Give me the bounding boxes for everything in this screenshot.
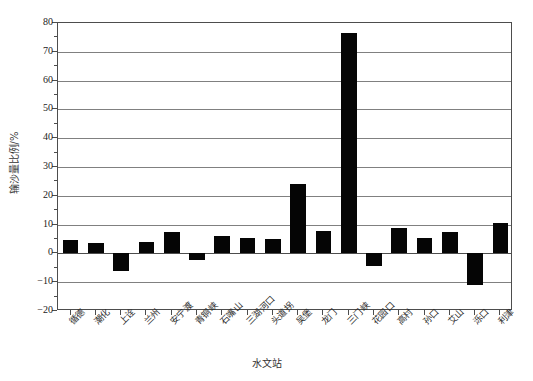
bar bbox=[391, 228, 407, 253]
y-axis-tick-label: 20 bbox=[17, 190, 53, 200]
bar bbox=[493, 223, 509, 253]
y-axis-minor-tick bbox=[54, 152, 57, 153]
y-axis-tick-label: 50 bbox=[17, 103, 53, 113]
y-axis-tick-label: 30 bbox=[17, 161, 53, 171]
y-axis-tick-label: 60 bbox=[17, 75, 53, 85]
plot-area bbox=[57, 22, 512, 310]
y-axis-minor-tick bbox=[54, 267, 57, 268]
y-axis-minor-tick bbox=[54, 180, 57, 181]
y-axis-minor-tick bbox=[54, 36, 57, 37]
bar bbox=[88, 243, 104, 253]
chart-figure: 输沙量比例/% −20−1001020304050607080循德潮化上诠兰州安… bbox=[0, 0, 533, 381]
bar bbox=[467, 253, 483, 285]
y-axis-minor-tick bbox=[54, 296, 57, 297]
y-axis-tick-label: 10 bbox=[17, 219, 53, 229]
gridline bbox=[58, 109, 511, 110]
y-axis-minor-tick bbox=[54, 238, 57, 239]
bar bbox=[341, 33, 357, 253]
gridline bbox=[58, 81, 511, 82]
bar bbox=[63, 240, 79, 254]
bar bbox=[214, 236, 230, 254]
bar bbox=[442, 232, 458, 254]
y-axis-minor-tick bbox=[54, 65, 57, 66]
y-axis-tick-label: 70 bbox=[17, 46, 53, 56]
y-axis-tick-label: 40 bbox=[17, 132, 53, 142]
bar bbox=[113, 253, 129, 270]
bar bbox=[189, 253, 205, 259]
gridline bbox=[58, 196, 511, 197]
gridline bbox=[58, 167, 511, 168]
bar bbox=[139, 242, 155, 254]
y-axis-tick-label: 0 bbox=[17, 247, 53, 257]
y-axis-tick-label: −10 bbox=[17, 276, 53, 286]
gridline bbox=[58, 52, 511, 53]
gridline bbox=[58, 138, 511, 139]
gridline bbox=[58, 282, 511, 283]
x-axis-title: 水文站 bbox=[0, 355, 533, 370]
y-axis-tick-label: 80 bbox=[17, 17, 53, 27]
bar bbox=[366, 253, 382, 266]
y-axis-minor-tick bbox=[54, 94, 57, 95]
gridline bbox=[58, 225, 511, 226]
bar bbox=[316, 231, 332, 253]
bar bbox=[164, 232, 180, 254]
y-axis-minor-tick bbox=[54, 209, 57, 210]
y-axis-minor-tick bbox=[54, 123, 57, 124]
bar bbox=[417, 238, 433, 254]
bar bbox=[265, 239, 281, 253]
y-axis-tick-label: −20 bbox=[17, 305, 53, 315]
bar bbox=[290, 184, 306, 254]
bar bbox=[240, 238, 256, 254]
